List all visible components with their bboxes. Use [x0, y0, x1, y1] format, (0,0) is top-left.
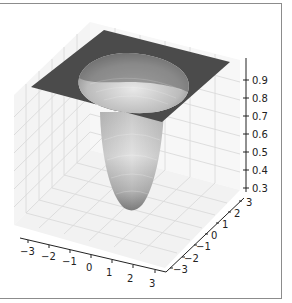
svg-text:2: 2 [127, 273, 133, 284]
surface-plot: 0.9 0.8 0.7 0.6 0.5 0.4 0.3 −3 −2 −1 0 1… [0, 0, 292, 303]
svg-text:−3: −3 [20, 246, 35, 257]
svg-text:2: 2 [234, 208, 240, 219]
svg-text:3: 3 [246, 197, 252, 208]
svg-text:0.4: 0.4 [252, 165, 268, 176]
svg-text:3: 3 [149, 278, 155, 289]
svg-text:−2: −2 [184, 253, 199, 264]
svg-text:−1: −1 [62, 256, 77, 267]
svg-text:0.6: 0.6 [252, 129, 268, 140]
svg-text:−2: −2 [41, 251, 56, 262]
svg-text:0: 0 [211, 230, 217, 241]
svg-text:0.8: 0.8 [252, 93, 268, 104]
svg-text:1: 1 [222, 219, 228, 230]
svg-text:−3: −3 [173, 264, 188, 275]
svg-text:0.5: 0.5 [252, 147, 268, 158]
svg-text:0.7: 0.7 [252, 111, 268, 122]
z-tick-labels: 0.9 0.8 0.7 0.6 0.5 0.4 0.3 [252, 75, 268, 194]
svg-text:0: 0 [86, 262, 92, 273]
svg-text:0.3: 0.3 [252, 183, 268, 194]
svg-text:0.9: 0.9 [252, 75, 268, 86]
svg-text:−1: −1 [196, 241, 211, 252]
svg-text:1: 1 [106, 267, 112, 278]
